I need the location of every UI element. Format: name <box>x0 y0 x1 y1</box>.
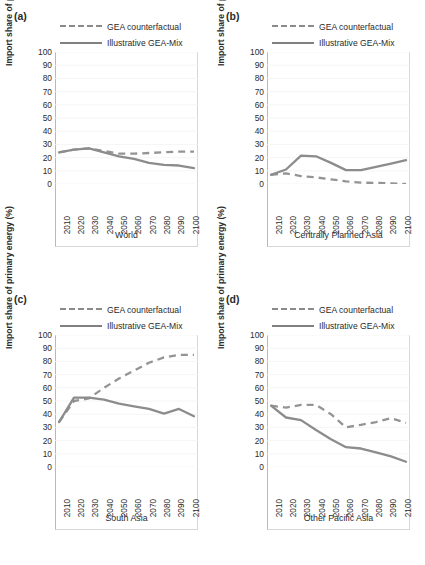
y-tick-label: 0 <box>47 180 52 188</box>
legend-row-counterfactual: GEA counterfactual <box>60 303 210 317</box>
y-tick-label: 40 <box>43 410 52 418</box>
y-tick-label: 60 <box>43 384 52 392</box>
y-tick-label: 80 <box>43 74 52 82</box>
y-tick-label: 100 <box>250 331 264 339</box>
y-tick-label: 10 <box>43 450 52 458</box>
legend-a: GEA counterfactual Illustrative GEA-Mix <box>60 20 210 52</box>
chart-canvas <box>267 52 410 184</box>
dashed-line-icon <box>60 22 102 32</box>
dashed-line-icon <box>272 305 314 315</box>
y-tick-label: 70 <box>43 87 52 95</box>
y-tick-label: 90 <box>255 344 264 352</box>
solid-line-icon <box>60 321 102 331</box>
legend-d: GEA counterfactual Illustrative GEA-Mix <box>272 303 422 335</box>
chart-canvas <box>267 335 410 467</box>
chart-canvas <box>55 52 198 184</box>
y-tick-label: 30 <box>43 423 52 431</box>
plot-area-b <box>267 52 410 184</box>
plot-wrapper-a: 1009080706050403020100 20102020203020402… <box>28 52 206 267</box>
plot-wrapper-d: 1009080706050403020100 20102020203020402… <box>240 335 418 550</box>
y-tick-label: 50 <box>43 114 52 122</box>
series-line-geamix <box>271 156 406 175</box>
y-tick-label: 50 <box>255 114 264 122</box>
series-line-counterfactual <box>271 405 406 427</box>
y-axis-label-b: Import share of primary energy (%) <box>214 0 228 66</box>
y-tick-label: 70 <box>255 87 264 95</box>
y-tick-label: 0 <box>47 463 52 471</box>
y-tick-label: 90 <box>43 61 52 69</box>
y-tick-label: 20 <box>43 436 52 444</box>
y-tick-label: 40 <box>255 410 264 418</box>
legend-label-counterfactual: GEA counterfactual <box>319 305 393 315</box>
series-line-counterfactual <box>271 173 406 184</box>
y-tick-label: 100 <box>250 48 264 56</box>
panel-a: (a) GEA counterfactual Illustrative GEA-… <box>0 0 212 283</box>
figure-grid: (a) GEA counterfactual Illustrative GEA-… <box>0 0 425 565</box>
legend-label-counterfactual: GEA counterfactual <box>319 22 393 32</box>
legend-row-geamix: Illustrative GEA-Mix <box>60 319 210 333</box>
x-axis-ticks-c: 2010202020302040205020602070208020902100 <box>55 469 198 509</box>
y-axis-ticks-b: 1009080706050403020100 <box>240 52 264 184</box>
plot-wrapper-b: 1009080706050403020100 20102020203020402… <box>240 52 418 267</box>
y-tick-label: 60 <box>43 101 52 109</box>
y-tick-label: 100 <box>38 331 52 339</box>
y-tick-label: 60 <box>255 101 264 109</box>
y-tick-label: 90 <box>43 344 52 352</box>
region-caption-d: Other Pacific Asia <box>267 513 410 523</box>
plot-area-c <box>55 335 198 467</box>
y-tick-label: 40 <box>43 127 52 135</box>
x-axis-ticks-d: 2010202020302040205020602070208020902100 <box>267 469 410 509</box>
y-tick-label: 40 <box>255 127 264 135</box>
y-axis-ticks-c: 1009080706050403020100 <box>28 335 52 467</box>
x-axis-ticks-a: 2010202020302040205020602070208020902100 <box>55 186 198 226</box>
y-axis-label-c: Import share of primary energy (%) <box>2 209 16 349</box>
solid-line-icon <box>272 321 314 331</box>
panel-d: (d) GEA counterfactual Illustrative GEA-… <box>212 283 425 565</box>
y-tick-label: 20 <box>255 436 264 444</box>
solid-line-icon <box>60 38 102 48</box>
y-tick-label: 80 <box>255 74 264 82</box>
y-axis-ticks-d: 1009080706050403020100 <box>240 335 264 467</box>
panel-c: (c) GEA counterfactual Illustrative GEA-… <box>0 283 212 565</box>
dashed-line-icon <box>272 22 314 32</box>
panel-b: (b) GEA counterfactual Illustrative GEA-… <box>212 0 425 283</box>
panel-letter-b: (b) <box>226 10 239 22</box>
series-line-geamix <box>59 148 194 168</box>
solid-line-icon <box>272 38 314 48</box>
series-line-counterfactual <box>59 355 194 422</box>
legend-b: GEA counterfactual Illustrative GEA-Mix <box>272 20 422 52</box>
y-tick-label: 10 <box>255 450 264 458</box>
y-tick-label: 50 <box>43 397 52 405</box>
y-tick-label: 50 <box>255 397 264 405</box>
plot-area-d <box>267 335 410 467</box>
y-tick-label: 70 <box>43 370 52 378</box>
legend-c: GEA counterfactual Illustrative GEA-Mix <box>60 303 210 335</box>
dashed-line-icon <box>60 305 102 315</box>
panel-letter-d: (d) <box>226 293 239 305</box>
y-tick-label: 20 <box>255 153 264 161</box>
y-tick-label: 30 <box>255 140 264 148</box>
y-tick-label: 0 <box>259 180 264 188</box>
legend-row-counterfactual: GEA counterfactual <box>272 303 422 317</box>
legend-label-geamix: Illustrative GEA-Mix <box>319 38 394 48</box>
y-tick-label: 20 <box>43 153 52 161</box>
y-tick-label: 30 <box>255 423 264 431</box>
legend-row-geamix: Illustrative GEA-Mix <box>272 319 422 333</box>
legend-row-geamix: Illustrative GEA-Mix <box>60 36 210 50</box>
y-tick-label: 60 <box>255 384 264 392</box>
region-caption-b: Centrally Planned Asia <box>267 230 410 240</box>
region-caption-c: South Asia <box>55 513 198 523</box>
y-axis-ticks-a: 1009080706050403020100 <box>28 52 52 184</box>
y-tick-label: 10 <box>255 167 264 175</box>
y-tick-label: 100 <box>38 48 52 56</box>
y-tick-label: 0 <box>259 463 264 471</box>
y-tick-label: 90 <box>255 61 264 69</box>
legend-label-geamix: Illustrative GEA-Mix <box>319 321 394 331</box>
legend-label-geamix: Illustrative GEA-Mix <box>107 38 182 48</box>
x-axis-ticks-b: 2010202020302040205020602070208020902100 <box>267 186 410 226</box>
legend-row-counterfactual: GEA counterfactual <box>272 20 422 34</box>
region-caption-a: World <box>55 230 198 240</box>
legend-label-geamix: Illustrative GEA-Mix <box>107 321 182 331</box>
y-tick-label: 70 <box>255 370 264 378</box>
y-tick-label: 80 <box>255 357 264 365</box>
